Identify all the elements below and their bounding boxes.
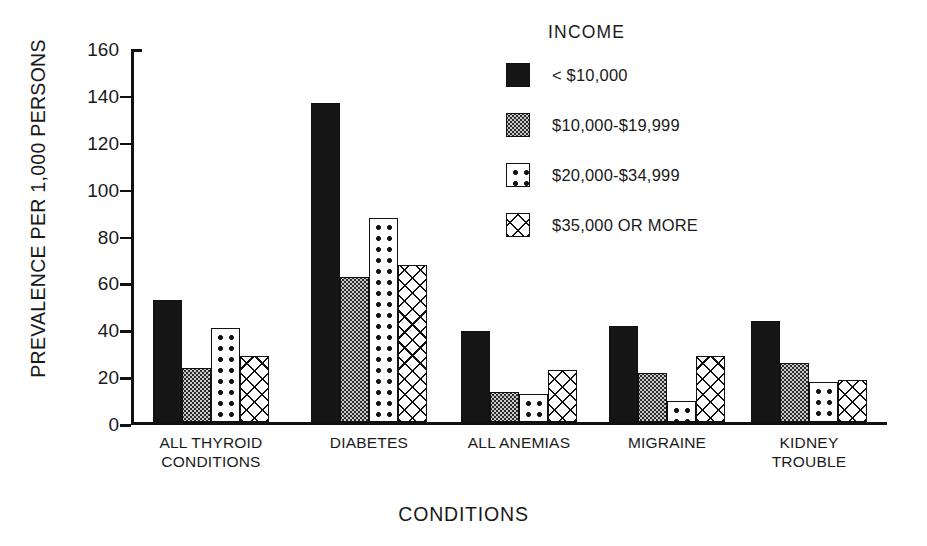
bar-group: DIABETES xyxy=(311,50,427,422)
bar xyxy=(311,103,340,422)
y-tick-label: 80 xyxy=(59,228,119,247)
bar xyxy=(780,363,809,422)
bar xyxy=(838,380,867,422)
y-tick-label: 0 xyxy=(59,415,119,434)
y-tick-mark xyxy=(120,283,131,286)
y-tick-mark xyxy=(120,330,131,333)
bar xyxy=(340,277,369,422)
y-tick-mark xyxy=(120,237,131,240)
bar xyxy=(751,321,780,422)
y-tick-mark xyxy=(120,190,131,193)
y-axis-line xyxy=(131,50,134,425)
y-tick-label: 40 xyxy=(59,321,119,340)
bar xyxy=(461,331,490,422)
y-tick-mark xyxy=(120,424,131,427)
x-axis-title: CONDITIONS xyxy=(0,503,927,526)
x-group-label: KIDNEYTROUBLE xyxy=(694,434,924,472)
bar xyxy=(638,373,667,422)
y-tick-label: 140 xyxy=(59,87,119,106)
y-tick-label: 160 xyxy=(59,40,119,59)
y-tick-label: 20 xyxy=(59,368,119,387)
legend-item: < $10,000 xyxy=(506,63,826,87)
y-tick-mark xyxy=(120,143,131,146)
bar xyxy=(182,368,211,422)
legend: INCOME < $10,000$10,000-$19,999$20,000-$… xyxy=(506,22,826,263)
bar xyxy=(369,218,398,422)
bar xyxy=(667,401,696,422)
legend-item: $35,000 OR MORE xyxy=(506,213,826,237)
bar-group: ALL THYROIDCONDITIONS xyxy=(153,50,269,422)
legend-item: $20,000-$34,999 xyxy=(506,163,826,187)
legend-label: $20,000-$34,999 xyxy=(552,166,680,185)
bar xyxy=(211,328,240,422)
legend-items: < $10,000$10,000-$19,999$20,000-$34,999$… xyxy=(506,63,826,237)
x-axis-line xyxy=(131,422,887,425)
legend-label: $35,000 OR MORE xyxy=(552,216,698,235)
bar xyxy=(548,370,577,422)
y-tick-label: 100 xyxy=(59,181,119,200)
bar-chart: PREVALENCE PER 1,000 PERSONS 16014012010… xyxy=(0,0,927,546)
y-tick-label: 120 xyxy=(59,134,119,153)
bar xyxy=(696,356,725,422)
y-axis-title: PREVALENCE PER 1,000 PERSONS xyxy=(27,19,50,399)
x-group-label-line: TROUBLE xyxy=(694,453,924,472)
bar xyxy=(398,265,427,422)
legend-swatch-fine-grid xyxy=(506,113,530,137)
legend-item: $10,000-$19,999 xyxy=(506,113,826,137)
x-group-label-line: KIDNEY xyxy=(694,434,924,453)
bar xyxy=(240,356,269,422)
legend-swatch-dots xyxy=(506,163,530,187)
x-group-label-line: CONDITIONS xyxy=(96,453,326,472)
legend-title: INCOME xyxy=(548,22,826,43)
y-tick-label: 60 xyxy=(59,274,119,293)
bar xyxy=(490,392,519,422)
bar xyxy=(519,394,548,422)
legend-label: < $10,000 xyxy=(552,66,628,85)
bar xyxy=(809,382,838,422)
legend-label: $10,000-$19,999 xyxy=(552,116,680,135)
legend-swatch-crosshatch xyxy=(506,213,530,237)
y-tick-mark xyxy=(120,377,131,380)
bar xyxy=(609,326,638,422)
y-tick-mark xyxy=(120,96,131,99)
bar xyxy=(153,300,182,422)
y-tick-mark xyxy=(131,49,142,52)
legend-swatch-solid xyxy=(506,63,530,87)
